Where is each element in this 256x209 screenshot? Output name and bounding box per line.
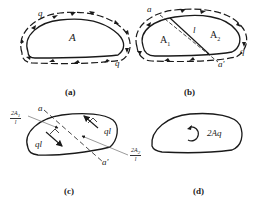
panel-a-flow-label-top: q [38, 9, 43, 18]
panel-b-area2-label: A2 [210, 30, 220, 42]
panel-c-caption: (c) [64, 187, 74, 196]
panel-c-arm-left: 2A1 l [10, 110, 21, 125]
panel-a-caption: (a) [65, 88, 76, 97]
panel-a-area-label: A [69, 32, 76, 43]
panel-b-cut-start: a [147, 5, 152, 14]
panel-c-arm-right: 2A2 l [130, 147, 141, 162]
panel-b-flow-label: q [240, 47, 245, 56]
panel-b-caption: (b) [184, 88, 195, 97]
panel-c-force-right: ql [104, 127, 111, 136]
panel-b-cut-end: a' [218, 60, 224, 69]
panel-a-flow-label-bottom: q [115, 59, 120, 68]
panel-b-area1-label: A1 [160, 35, 170, 47]
panel-d-shape [152, 113, 242, 152]
panel-b-shape [136, 9, 247, 62]
panel-d-torque-label: 2Aq [207, 129, 222, 138]
panel-c-cut-end: a' [102, 158, 108, 167]
panel-c-shape [27, 110, 128, 162]
panel-b-length-label: l [193, 26, 196, 35]
panel-d-caption: (d) [193, 187, 204, 196]
panel-c-cut-start: a [38, 104, 43, 113]
panel-c-force-left: ql [35, 140, 42, 149]
